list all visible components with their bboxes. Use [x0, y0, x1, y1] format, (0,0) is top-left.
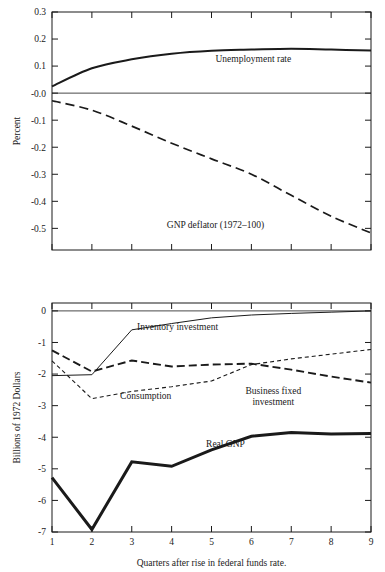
x-ticklabel: 5: [209, 537, 214, 547]
series-label-business-fixed-investment: Business fixedinvestment: [245, 386, 301, 407]
top-y-ticklabel: -0.1: [31, 116, 46, 126]
bottom-panel-ticks: [52, 303, 371, 532]
top-panel: 0.30.20.1-0.0-0.1-0.2-0.3-0.4-0.5 Unempl…: [12, 7, 371, 250]
top-panel-series-group: [52, 49, 371, 233]
economic-impulse-response-figure: 0.30.20.1-0.0-0.1-0.2-0.3-0.4-0.5 Unempl…: [0, 0, 385, 572]
top-y-ticklabel: -0.4: [31, 197, 46, 207]
top-panel-y-ticklabels: 0.30.20.1-0.0-0.1-0.2-0.3-0.4-0.5: [31, 7, 46, 233]
series-line-consumption: [52, 349, 371, 398]
series-line-unemployment-rate: [52, 49, 371, 87]
bottom-panel-series-group: [52, 311, 371, 530]
bottom-panel: 0-1-2-3-4-5-6-7 123456789 Inventory inve…: [12, 303, 374, 568]
x-ticklabel: 7: [289, 537, 294, 547]
bottom-panel-frame: [52, 303, 371, 532]
series-label-inventory-investment: Inventory investment: [137, 322, 218, 332]
bottom-panel-x-ticklabels: 123456789: [50, 537, 374, 547]
x-axis-caption: Quarters after rise in federal funds rat…: [137, 558, 287, 568]
top-panel-series-labels: Unemployment rateGNP deflator (1972–100): [167, 54, 291, 231]
top-y-ticklabel: 0.3: [34, 7, 46, 17]
x-ticklabel: 9: [369, 537, 374, 547]
bottom-y-ticklabel: -5: [38, 464, 46, 474]
bottom-panel-y-ticklabels: 0-1-2-3-4-5-6-7: [38, 306, 46, 537]
x-ticklabel: 3: [129, 537, 134, 547]
top-panel-frame: [52, 12, 371, 250]
bottom-panel-series-labels: Inventory investmentBusiness fixedinvest…: [120, 322, 301, 448]
series-label-unemployment-rate: Unemployment rate: [216, 54, 292, 64]
figure-container: 0.30.20.1-0.0-0.1-0.2-0.3-0.4-0.5 Unempl…: [0, 0, 385, 572]
top-y-ticklabel: 0.2: [34, 34, 46, 44]
top-y-ticklabel: 0.1: [34, 61, 46, 71]
top-y-ticklabel: -0.2: [31, 143, 46, 153]
series-label-consumption: Consumption: [120, 391, 171, 401]
series-label-real-gnp: Real GNP: [206, 439, 245, 449]
bottom-y-ticklabel: -7: [38, 527, 46, 537]
series-line-gnp-deflator-1972-100: [52, 101, 371, 233]
x-ticklabel: 8: [329, 537, 334, 547]
top-y-ticklabel: -0.3: [31, 170, 46, 180]
top-panel-y-axis-title: Percent: [12, 116, 22, 145]
x-ticklabel: 2: [90, 537, 95, 547]
series-line-business-fixed-investment: [52, 350, 371, 382]
x-ticklabel: 1: [50, 537, 55, 547]
x-ticklabel: 4: [169, 537, 174, 547]
series-label-gnp-deflator-1972-100: GNP deflator (1972–100): [167, 220, 264, 231]
top-y-ticklabel: -0.5: [31, 224, 46, 234]
x-ticklabel: 6: [249, 537, 254, 547]
top-y-ticklabel: -0.0: [31, 89, 46, 99]
bottom-panel-y-axis-title: Billions of 1972 Dollars: [12, 371, 22, 463]
bottom-y-ticklabel: 0: [41, 306, 46, 316]
bottom-y-ticklabel: -3: [38, 401, 46, 411]
series-line-inventory-investment: [52, 311, 371, 376]
top-panel-ticks: [52, 12, 371, 250]
bottom-y-ticklabel: -1: [38, 338, 46, 348]
bottom-y-ticklabel: -4: [38, 433, 46, 443]
bottom-y-ticklabel: -2: [38, 369, 46, 379]
bottom-y-ticklabel: -6: [38, 496, 46, 506]
